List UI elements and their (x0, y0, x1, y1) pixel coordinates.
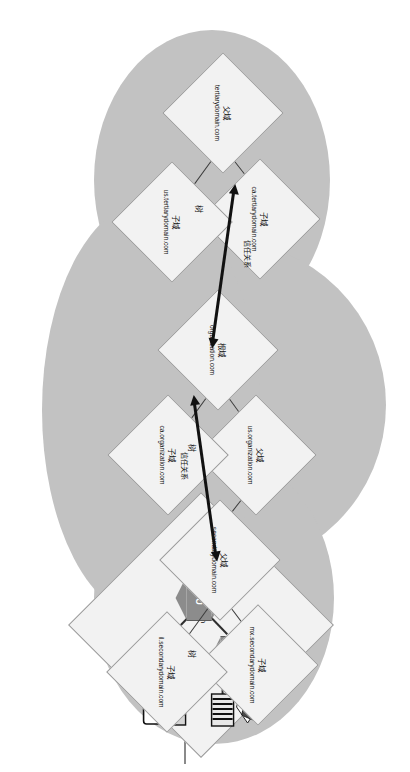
trust-label-organization-secondary: 信任关系 (180, 452, 190, 480)
node-fqdn: ca.organization.com (158, 425, 166, 484)
node-role-label: 子域 (256, 658, 265, 672)
node-fqdn: tertiarydomain.com (213, 85, 221, 141)
node-role-label: 父域 (221, 106, 230, 120)
trust-label-organization-tertiary: 信任关系 (243, 240, 253, 268)
trust-arrow-head-left (229, 183, 240, 194)
node-fqdn: us.organization.com (246, 425, 254, 484)
forest-diagram-canvas: 林 父域 tertiarydomain.com 子域 ca.tertiarydo… (0, 0, 410, 772)
trust-arrow-head-right (211, 551, 222, 562)
node-role-label: 父域 (254, 448, 263, 462)
trust-arrow-head-right (207, 338, 218, 349)
node-role-label: 子域 (166, 448, 175, 462)
trust-arrow-head-left (189, 394, 200, 405)
node-role-label: 子域 (165, 665, 174, 679)
node-role-label: 子域 (258, 212, 267, 226)
tree-label-organization: 树 (187, 444, 198, 452)
tree-label-tertiary: 树 (194, 205, 205, 213)
node-role-label: 子域 (170, 215, 179, 229)
node-fqdn: us.tertiarydomain.com (162, 190, 170, 255)
tree-label-secondary: 树 (187, 650, 198, 658)
node-fqdn: il.secondarydomain.com (157, 636, 165, 707)
node-fqdn: mx.secondarydomain.com (248, 627, 256, 704)
